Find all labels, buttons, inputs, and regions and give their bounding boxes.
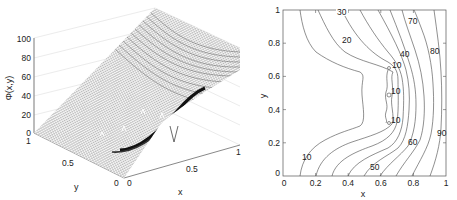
svg-text:60: 60: [408, 137, 418, 147]
x-axis-label: x: [178, 187, 183, 197]
svg-text:10: 10: [302, 152, 312, 162]
svg-text:0.4: 0.4: [342, 178, 354, 188]
svg-text:0: 0: [275, 168, 280, 178]
svg-text:10: 10: [392, 60, 402, 70]
svg-text:0: 0: [127, 178, 132, 188]
svg-text:0.4: 0.4: [268, 105, 280, 115]
svg-text:40: 40: [22, 91, 32, 101]
svg-text:40: 40: [400, 49, 410, 59]
svg-text:1: 1: [26, 136, 31, 146]
contour-x-ticks: 0 0.2 0.4 0.6 0.8 1: [282, 178, 449, 188]
contour-y-ticks: 1 0.8 0.6 0.4 0.2 0: [268, 5, 280, 178]
svg-text:100: 100: [17, 34, 31, 44]
svg-text:50: 50: [370, 162, 380, 172]
svg-text:70: 70: [408, 16, 418, 26]
y-axis-label: y: [74, 182, 79, 192]
svg-text:1: 1: [236, 147, 241, 157]
z-ticks: 100 80 60 40 20 0: [17, 34, 31, 138]
surface-plot: 100 80 60 40 20 0 Φ(x,y) 1 0.5 0 y 0 0.5…: [4, 0, 245, 197]
svg-text:0.8: 0.8: [268, 38, 280, 48]
svg-text:0: 0: [282, 178, 287, 188]
svg-text:80: 80: [22, 53, 32, 63]
svg-text:0.5: 0.5: [62, 158, 74, 168]
svg-text:80: 80: [430, 46, 440, 56]
svg-text:0: 0: [114, 178, 119, 188]
figure: 100 80 60 40 20 0 Φ(x,y) 1 0.5 0 y 0 0.5…: [0, 0, 457, 200]
svg-text:10: 10: [391, 86, 401, 96]
svg-text:60: 60: [22, 72, 32, 82]
svg-text:0.2: 0.2: [310, 178, 322, 188]
svg-text:0.2: 0.2: [268, 138, 280, 148]
svg-text:30: 30: [337, 7, 347, 17]
surface-spike: [170, 126, 178, 142]
svg-text:20: 20: [342, 35, 352, 45]
svg-text:0.6: 0.6: [375, 178, 387, 188]
x-ticks: 0 0.5 1: [127, 147, 241, 188]
contour-y-axis-label: y: [258, 93, 268, 98]
contour-plot: 1 0.8 0.6 0.4 0.2 0 0 0.2 0.4 0.6 0.8 1 …: [258, 5, 449, 199]
svg-text:20: 20: [22, 110, 32, 120]
svg-text:1: 1: [444, 178, 449, 188]
svg-text:10: 10: [391, 115, 401, 125]
svg-text:0.5: 0.5: [186, 164, 198, 174]
svg-text:0.8: 0.8: [407, 178, 419, 188]
z-axis-label: Φ(x,y): [4, 76, 14, 101]
svg-text:1: 1: [275, 5, 280, 15]
contour-x-axis-label: x: [361, 189, 366, 199]
svg-text:90: 90: [437, 128, 447, 138]
svg-text:0.6: 0.6: [268, 71, 280, 81]
